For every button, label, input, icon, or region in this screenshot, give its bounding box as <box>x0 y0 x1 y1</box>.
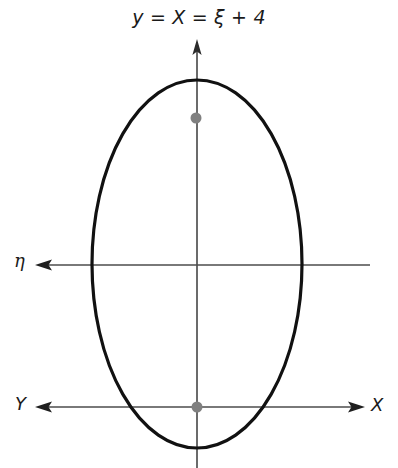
y-axis-label: Y <box>15 395 26 413</box>
eta-axis-label: η <box>14 252 25 270</box>
x-axis-label: X <box>371 396 383 414</box>
equation-label: y = X = ξ + 4 <box>0 8 398 27</box>
ellipse-coordinate-diagram <box>0 0 398 468</box>
xi-eta-origin-point <box>191 113 202 124</box>
figure-canvas: y = X = ξ + 4 η Y X <box>0 0 398 468</box>
x-y-origin-point <box>192 402 203 413</box>
